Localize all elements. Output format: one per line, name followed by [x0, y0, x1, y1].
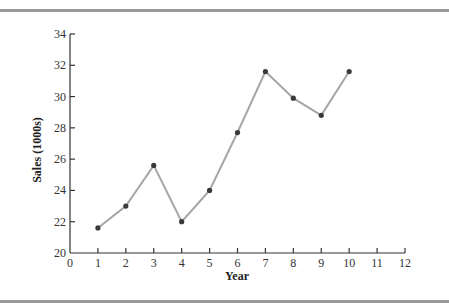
data-point-marker [319, 113, 324, 118]
x-tick-label: 12 [399, 256, 411, 270]
y-tick-label: 34 [54, 27, 66, 41]
y-axis-title: Sales (1000s) [30, 117, 44, 183]
y-tick-label: 22 [54, 215, 66, 229]
x-tick-label: 1 [95, 256, 101, 270]
line-chart: 2022242628303234 0123456789101112 Year S… [0, 0, 449, 305]
x-tick-label: 5 [207, 256, 213, 270]
y-tick-label: 26 [54, 152, 66, 166]
data-point-marker [291, 96, 296, 101]
x-tick-label: 10 [343, 256, 355, 270]
y-tick-label: 30 [54, 90, 66, 104]
x-tick-label: 0 [67, 256, 73, 270]
x-axis-title: Year [225, 269, 250, 283]
data-point-marker [95, 225, 100, 230]
x-tick-label: 7 [262, 256, 268, 270]
data-point-marker [347, 69, 352, 74]
data-point-marker [151, 163, 156, 168]
data-series [95, 69, 351, 231]
data-point-marker [263, 69, 268, 74]
x-tick-label: 8 [290, 256, 296, 270]
y-axis-ticks: 2022242628303234 [54, 27, 75, 260]
axes [70, 34, 405, 253]
x-tick-label: 2 [123, 256, 129, 270]
data-point-marker [235, 130, 240, 135]
y-tick-label: 28 [54, 121, 66, 135]
x-tick-label: 4 [179, 256, 185, 270]
series-line [98, 72, 349, 228]
x-axis-ticks: 0123456789101112 [67, 248, 411, 270]
x-tick-label: 3 [151, 256, 157, 270]
y-tick-label: 24 [54, 183, 66, 197]
x-tick-label: 11 [371, 256, 383, 270]
data-point-marker [207, 188, 212, 193]
data-point-marker [123, 203, 128, 208]
y-tick-label: 20 [54, 246, 66, 260]
data-point-marker [179, 219, 184, 224]
y-tick-label: 32 [54, 58, 66, 72]
x-tick-label: 6 [235, 256, 241, 270]
x-tick-label: 9 [318, 256, 324, 270]
